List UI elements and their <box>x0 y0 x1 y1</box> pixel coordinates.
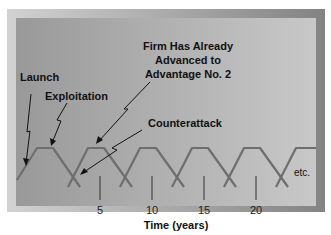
tick-label-5: 5 <box>97 204 103 216</box>
tick-label-20: 20 <box>250 204 262 216</box>
tick-label-10: 10 <box>146 204 158 216</box>
advanced-label-line1: Firm Has Already <box>143 40 234 52</box>
exploitation-label: Exploitation <box>45 90 108 102</box>
tick-label-15: 15 <box>198 204 210 216</box>
launch-label: Launch <box>20 71 59 83</box>
advanced-label-line2: Advanced to <box>155 54 221 66</box>
etc-label: etc. <box>294 167 310 178</box>
counterattack-label: Counterattack <box>148 117 223 129</box>
x-axis-title: Time (years) <box>144 219 209 231</box>
advanced-label-line3: Advantage No. 2 <box>145 68 231 80</box>
competitive-advantage-cycle-diagram: Launch Exploitation Firm Has Already Adv… <box>0 0 331 235</box>
